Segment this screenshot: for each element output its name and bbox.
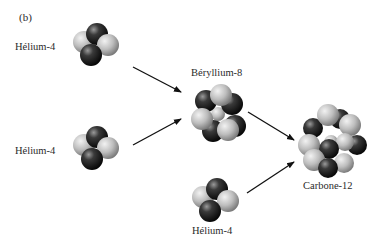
arrow-helium4-top-to-beryllium8: [133, 67, 181, 92]
arrow-helium4-middle-to-beryllium8: [133, 119, 181, 145]
arrow-helium4-bottom-to-carbon12: [247, 162, 294, 193]
reaction-diagram: [0, 0, 380, 244]
arrow-beryllium8-to-carbon12: [248, 112, 294, 140]
helium4-bottom-nucleus: [192, 178, 239, 222]
beryllium8-nucleus: [191, 84, 246, 142]
carbon12-nucleus: [298, 104, 367, 178]
helium4-middle-nucleus: [73, 126, 119, 170]
helium4-top-nucleus: [73, 23, 119, 66]
